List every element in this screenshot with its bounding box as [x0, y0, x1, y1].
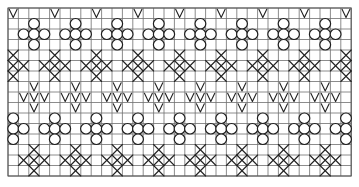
oval-shape [39, 29, 50, 40]
oval-symbol-icon [133, 113, 144, 124]
oval-symbol-icon [133, 124, 144, 135]
oval-symbol-icon [112, 29, 123, 40]
v-symbol-icon [280, 83, 288, 91]
oval-symbol-icon [49, 124, 60, 135]
v-stroke [113, 83, 121, 91]
oval-symbol-icon [216, 134, 227, 145]
oval-symbol-icon [101, 124, 112, 135]
v-symbol-icon [311, 93, 319, 101]
oval-symbol-icon [101, 29, 112, 40]
x-symbol-icon [216, 61, 226, 72]
oval-symbol-icon [143, 124, 154, 135]
v-symbol-icon [248, 93, 256, 101]
x-symbol-icon [91, 71, 101, 82]
v-symbol-icon [134, 9, 142, 17]
x-symbol-icon [143, 155, 153, 166]
oval-shape [216, 134, 227, 145]
x-symbol-icon [18, 61, 28, 72]
v-symbol-icon [30, 93, 38, 101]
v-stroke [217, 9, 225, 17]
oval-shape [195, 19, 206, 30]
v-stroke [51, 9, 59, 17]
chart-grid-svg [0, 0, 359, 187]
x-symbol-icon [226, 155, 236, 166]
oval-shape [237, 40, 248, 51]
oval-shape [60, 29, 71, 40]
oval-shape [8, 113, 19, 124]
v-symbol-icon [321, 104, 329, 112]
oval-symbol-icon [185, 124, 196, 135]
oval-shape [268, 29, 279, 40]
x-symbol-icon [60, 155, 70, 166]
v-stroke [207, 93, 215, 101]
oval-shape [247, 124, 258, 135]
oval-symbol-icon [237, 19, 248, 30]
x-symbol-icon [226, 61, 236, 72]
v-stroke [300, 9, 308, 17]
v-stroke [196, 83, 204, 91]
oval-shape [257, 113, 268, 124]
oval-symbol-icon [216, 113, 227, 124]
x-symbol-icon [278, 145, 288, 156]
oval-symbol-icon [39, 29, 50, 40]
x-symbol-icon [81, 155, 91, 166]
oval-symbol-icon [299, 134, 310, 145]
v-symbol-icon [72, 93, 80, 101]
oval-shape [29, 19, 40, 30]
oval-symbol-icon [309, 29, 320, 40]
x-symbol-icon [154, 166, 164, 177]
v-stroke [186, 93, 194, 101]
oval-shape [8, 134, 19, 145]
oval-shape [174, 134, 185, 145]
oval-shape [122, 29, 133, 40]
oval-shape [70, 29, 81, 40]
oval-shape [164, 124, 175, 135]
x-symbol-icon [278, 166, 288, 177]
oval-shape [49, 134, 60, 145]
x-symbol-icon [50, 61, 60, 72]
v-stroke [321, 83, 329, 91]
oval-shape [29, 40, 40, 51]
oval-symbol-icon [153, 40, 164, 51]
oval-symbol-icon [205, 29, 216, 40]
oval-symbol-icon [8, 113, 19, 124]
v-symbol-icon [238, 104, 246, 112]
oval-symbol-icon [29, 19, 40, 30]
v-stroke [30, 104, 38, 112]
v-stroke [259, 9, 267, 17]
oval-symbol-icon [299, 113, 310, 124]
x-symbol-icon [289, 61, 299, 72]
v-symbol-icon [82, 93, 90, 101]
oval-symbol-icon [153, 29, 164, 40]
x-symbol-icon [216, 50, 226, 61]
v-symbol-icon [51, 9, 59, 17]
oval-symbol-icon [278, 19, 289, 30]
x-symbol-icon [247, 61, 257, 72]
x-symbol-icon [91, 61, 101, 72]
x-symbol-icon [18, 155, 28, 166]
oval-symbol-icon [122, 29, 133, 40]
v-symbol-icon [92, 9, 100, 17]
x-symbol-icon [50, 71, 60, 82]
x-symbol-icon [29, 166, 39, 177]
oval-shape [299, 134, 310, 145]
x-symbol-icon [341, 61, 351, 72]
x-symbol-icon [237, 145, 247, 156]
v-symbol-icon [30, 104, 38, 112]
v-stroke [228, 93, 236, 101]
oval-symbol-icon [341, 134, 352, 145]
x-symbol-icon [29, 145, 39, 156]
x-symbol-icon [247, 155, 257, 166]
x-symbol-icon [112, 145, 122, 156]
oval-symbol-icon [60, 29, 71, 40]
v-stroke [196, 93, 204, 101]
v-stroke [269, 93, 277, 101]
v-symbol-icon [61, 93, 69, 101]
v-stroke [155, 104, 163, 112]
chart-symbols [8, 9, 352, 176]
v-stroke [332, 93, 340, 101]
v-symbol-icon [196, 83, 204, 91]
v-symbol-icon [280, 104, 288, 112]
v-stroke [134, 9, 142, 17]
oval-shape [289, 29, 300, 40]
